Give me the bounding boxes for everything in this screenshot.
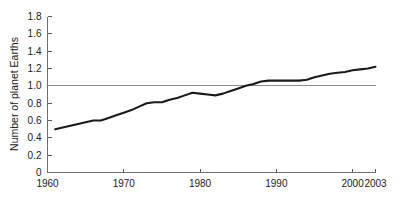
y-tick-label: 1.2 <box>28 63 42 74</box>
y-axis-title: Number of planet Earths <box>8 37 20 151</box>
x-tick-label: 2003 <box>364 178 387 189</box>
y-tick-label: 0.8 <box>28 98 42 109</box>
x-axis-tick-marks <box>48 169 376 173</box>
ecological-footprint-line <box>55 67 375 129</box>
y-axis-title-group: Number of planet Earths <box>8 37 20 151</box>
chart-figure: Number of planet Earths 00.20.40.60.81.0… <box>0 0 410 203</box>
x-axis-tick-labels: 196019701980199020002003 <box>36 178 387 189</box>
y-axis-tick-labels: 00.20.40.60.81.01.21.41.61.8 <box>28 11 42 178</box>
line-chart-plot: Number of planet Earths 00.20.40.60.81.0… <box>0 0 410 203</box>
y-axis-tick-marks <box>48 17 52 173</box>
y-tick-label: 0.2 <box>28 150 42 161</box>
x-tick-label: 2000 <box>341 178 364 189</box>
y-tick-label: 1.8 <box>28 11 42 22</box>
x-tick-label: 1990 <box>265 178 288 189</box>
y-tick-label: 1.6 <box>28 28 42 39</box>
x-tick-label: 1980 <box>189 178 212 189</box>
y-tick-label: 1.0 <box>28 80 42 91</box>
x-tick-label: 1960 <box>36 178 59 189</box>
y-tick-label: 0.6 <box>28 115 42 126</box>
y-tick-label: 0.4 <box>28 132 42 143</box>
y-tick-label: 1.4 <box>28 46 42 57</box>
x-tick-label: 1970 <box>113 178 136 189</box>
y-tick-label: 0 <box>36 167 42 178</box>
